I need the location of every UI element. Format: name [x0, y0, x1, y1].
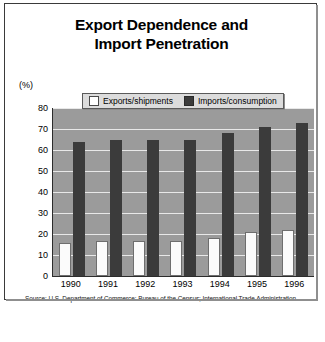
y-axis-tick-label: 50	[38, 167, 48, 176]
legend-swatch-exports-icon	[89, 96, 99, 106]
y-axis-tick-label: 10	[38, 251, 48, 260]
bar-group	[239, 108, 276, 276]
bar-exports-1996	[282, 230, 294, 276]
x-axis-tick-label: 1996	[276, 279, 313, 289]
bar-imports-1994	[222, 133, 234, 276]
bar-imports-1995	[259, 127, 271, 276]
bar-imports-1996	[296, 123, 308, 276]
y-axis-tick-label: 20	[38, 230, 48, 239]
bar-exports-1993	[170, 241, 182, 276]
bar-exports-1995	[245, 232, 257, 276]
y-axis-tick-label: 30	[38, 209, 48, 218]
bar-group	[165, 108, 202, 276]
bar-group	[277, 108, 314, 276]
bar-exports-1992	[133, 241, 145, 276]
x-axis-tick-label: 1991	[89, 279, 126, 289]
y-axis-tick-label: 60	[38, 146, 48, 155]
y-axis-tick-label: 0	[43, 272, 48, 281]
bar-group	[128, 108, 165, 276]
x-axis-tick-label: 1992	[127, 279, 164, 289]
legend-label-imports: Imports/consumption	[198, 96, 277, 106]
x-axis-tick-label: 1990	[52, 279, 89, 289]
bar-exports-1990	[59, 243, 71, 276]
y-axis-tick-label: 40	[38, 188, 48, 197]
y-axis-unit-label: (%)	[19, 80, 33, 90]
bar-imports-1992	[147, 140, 159, 277]
legend-label-exports: Exports/shipments	[103, 96, 173, 106]
legend-item-exports: Exports/shipments	[89, 96, 173, 106]
legend-swatch-imports-icon	[184, 96, 194, 106]
bar-imports-1990	[73, 142, 85, 276]
page-title: Export Dependence and Import Penetration	[5, 15, 318, 53]
y-axis-tick-labels: 01020304050607080	[19, 108, 48, 276]
figure-frame: Export Dependence and Import Penetration…	[4, 3, 317, 300]
x-axis-tick-label: 1993	[164, 279, 201, 289]
title-line-2: Import Penetration	[5, 34, 318, 53]
source-note: Source: U.S. Department of Commerce: Bur…	[25, 295, 315, 302]
bar-exports-1994	[208, 238, 220, 276]
chart-legend: Exports/shipments Imports/consumption	[82, 93, 284, 109]
bar-exports-1991	[96, 241, 108, 276]
plot-area	[52, 108, 314, 277]
bar-group	[53, 108, 90, 276]
bar-imports-1993	[184, 140, 196, 277]
x-axis-tick-label: 1994	[201, 279, 238, 289]
title-line-1: Export Dependence and	[5, 15, 318, 34]
legend-item-imports: Imports/consumption	[184, 96, 277, 106]
bar-group	[202, 108, 239, 276]
bar-imports-1991	[110, 140, 122, 277]
x-axis-tick-label: 1995	[238, 279, 275, 289]
y-axis-tick-label: 80	[38, 104, 48, 113]
x-axis-tick-labels: 1990199119921993199419951996	[52, 279, 313, 293]
bar-group	[90, 108, 127, 276]
y-axis-tick-label: 70	[38, 125, 48, 134]
